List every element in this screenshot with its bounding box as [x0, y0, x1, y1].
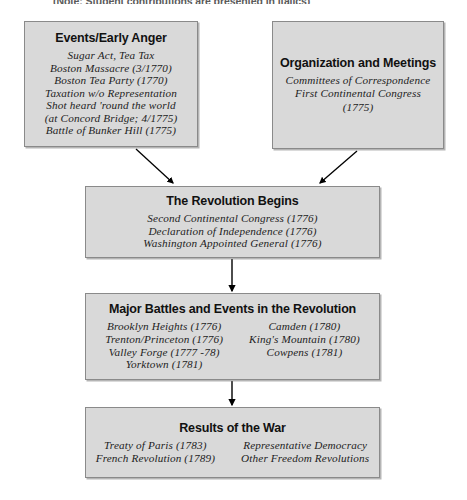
- box-body: Committees of Correspondence First Conti…: [286, 74, 431, 114]
- box-the-revolution-begins[interactable]: The Revolution Begins Second Continental…: [85, 186, 380, 258]
- box-line: Shot heard 'round the world: [45, 99, 178, 112]
- box-line: First Continental Congress: [286, 87, 431, 100]
- box-results-of-the-war[interactable]: Results of the War Treaty of Paris (1783…: [85, 407, 380, 478]
- connector-events-to-revolution: [136, 149, 173, 183]
- box-title: The Revolution Begins: [166, 194, 298, 209]
- box-line: (1775): [286, 101, 431, 114]
- box-line: Camden (1780): [249, 320, 360, 333]
- box-line: Committees of Correspondence: [286, 74, 431, 87]
- box-line: (at Concord Bridge; 4/1775): [45, 112, 178, 125]
- box-line: Boston Tea Party (1770): [45, 74, 178, 87]
- box-line: Yorktown (1781): [105, 358, 223, 371]
- box-major-battles-and-events[interactable]: Major Battles and Events in the Revoluti…: [85, 293, 380, 380]
- box-line: French Revolution (1789): [96, 452, 215, 465]
- box-line: Battle of Bunker Hill (1775): [45, 124, 178, 137]
- box-line: Washington Appointed General (1776): [143, 237, 321, 250]
- box-organization-and-meetings[interactable]: Organization and Meetings Committees of …: [272, 21, 444, 149]
- box-line: Other Freedom Revolutions: [241, 452, 369, 465]
- box-line: Boston Massacre (3/1770): [45, 62, 178, 75]
- box-body: Brooklyn Heights (1776) Trenton/Princeto…: [105, 320, 360, 370]
- diagram-note: (Note: Student contributions are present…: [53, 0, 413, 4]
- box-body: Sugar Act, Tea Tax Boston Massacre (3/17…: [45, 49, 178, 137]
- box-title: Results of the War: [179, 421, 286, 436]
- box-line: Trenton/Princeton (1776): [105, 333, 223, 346]
- box-line: Sugar Act, Tea Tax: [45, 49, 178, 62]
- box-column-right: Representative Democracy Other Freedom R…: [241, 439, 369, 464]
- box-line: King's Mountain (1780): [249, 333, 360, 346]
- box-line: Representative Democracy: [241, 439, 369, 452]
- box-column-left: Treaty of Paris (1783) French Revolution…: [96, 439, 215, 464]
- box-title: Major Battles and Events in the Revoluti…: [109, 302, 356, 317]
- box-line: Declaration of Independence (1776): [143, 225, 321, 238]
- box-events-early-anger[interactable]: Events/Early Anger Sugar Act, Tea Tax Bo…: [24, 21, 198, 147]
- flowchart-canvas: (Note: Student contributions are present…: [0, 0, 467, 500]
- box-title: Organization and Meetings: [280, 56, 436, 71]
- box-body: Treaty of Paris (1783) French Revolution…: [96, 439, 370, 464]
- box-line: Valley Forge (1777 -78): [105, 346, 223, 359]
- box-line: Second Continental Congress (1776): [143, 212, 321, 225]
- box-column-right: Camden (1780) King's Mountain (1780) Cow…: [249, 320, 360, 358]
- box-body: Second Continental Congress (1776) Decla…: [143, 212, 321, 250]
- box-line: Treaty of Paris (1783): [96, 439, 215, 452]
- box-title: Events/Early Anger: [55, 31, 166, 46]
- box-line: Taxation w/o Representation: [45, 87, 178, 100]
- box-line: Cowpens (1781): [249, 346, 360, 359]
- connector-organization-to-revolution: [320, 151, 357, 183]
- box-column-left: Brooklyn Heights (1776) Trenton/Princeto…: [105, 320, 223, 370]
- box-line: Brooklyn Heights (1776): [105, 320, 223, 333]
